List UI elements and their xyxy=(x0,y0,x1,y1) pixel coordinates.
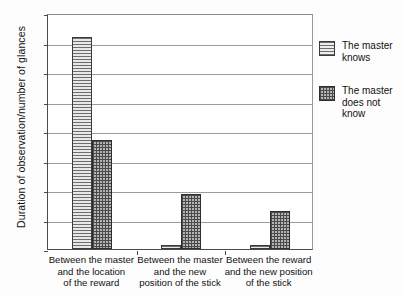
bar-master-does-not-know xyxy=(270,211,290,249)
x-axis-label-line: and the new xyxy=(130,266,231,278)
plot-area xyxy=(47,14,313,250)
x-axis-label: Between the rewardand the new positionof… xyxy=(218,254,319,289)
x-axis-label-line: of the reward xyxy=(41,277,142,289)
bar-master-knows xyxy=(161,245,181,249)
bar-master-knows xyxy=(72,37,92,249)
bar-chart-figure: Duration of observation/number of glance… xyxy=(0,0,404,295)
x-axis-label-line: of the stick xyxy=(218,277,319,289)
x-axis-label-line: Between the master xyxy=(41,254,142,266)
x-axis-label: Between the masterand the newposition of… xyxy=(130,254,231,289)
x-axis-label: Between the masterand the locationof the… xyxy=(41,254,142,289)
bar-group xyxy=(225,15,314,249)
legend-label-line2: does not know xyxy=(342,97,404,120)
x-axis-label-line: position of the stick xyxy=(130,277,231,289)
legend-item-master-knows: The master knows xyxy=(319,40,404,64)
x-axis-label-line: Between the reward xyxy=(218,254,319,266)
legend-swatch-horizontal-lines-icon xyxy=(319,41,335,56)
bar-master-does-not-know xyxy=(92,140,112,249)
bar-group xyxy=(48,15,137,249)
x-axis-label-line: and the location xyxy=(41,266,142,278)
x-axis-label-line: Between the master xyxy=(130,254,231,266)
chart-legend: The master knows The master does not kno… xyxy=(319,40,404,141)
bar-master-knows xyxy=(250,245,270,249)
y-axis-title: Duration of observation/number of glance… xyxy=(15,2,27,252)
legend-label-line1: The master xyxy=(342,85,404,97)
legend-label-line1: The master xyxy=(342,40,404,52)
legend-item-master-does-not-know: The master does not know xyxy=(319,85,404,120)
legend-label-line2: knows xyxy=(342,52,404,64)
bar-group xyxy=(137,15,226,249)
x-axis-label-line: and the new position xyxy=(218,266,319,278)
y-axis-tick xyxy=(44,251,48,252)
x-axis-category-labels: Between the masterand the locationof the… xyxy=(47,254,313,294)
legend-swatch-crosshatch-icon xyxy=(319,86,335,101)
bar-master-does-not-know xyxy=(181,194,201,249)
